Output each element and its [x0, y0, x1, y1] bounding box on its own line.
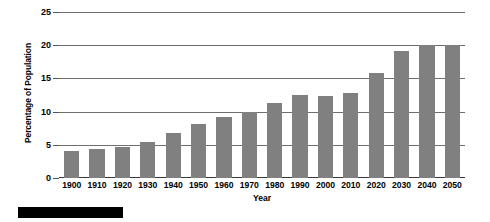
bar-2000 [318, 96, 333, 178]
bar-2020 [369, 73, 384, 178]
y-tick-label-15: 15 [41, 73, 51, 83]
plot-area: 0510152025 [59, 12, 465, 178]
bar-1900 [64, 151, 79, 178]
x-tick-label-2040: 2040 [417, 180, 436, 190]
x-tick-label-2010: 2010 [341, 180, 360, 190]
y-tick-label-0: 0 [46, 173, 51, 183]
bar-1940 [166, 133, 181, 178]
y-tick-label-5: 5 [46, 140, 51, 150]
x-tick-label-2020: 2020 [367, 180, 386, 190]
x-tick-label-1920: 1920 [113, 180, 132, 190]
bar-1930 [140, 142, 155, 178]
bar-1910 [89, 149, 104, 178]
scan-artifact-bar [18, 207, 123, 218]
x-tick-label-2050: 2050 [443, 180, 462, 190]
bar-1920 [115, 147, 130, 178]
y-tick-label-20: 20 [41, 40, 51, 50]
bar-1960 [216, 117, 231, 178]
bar-1990 [292, 95, 307, 178]
bar-chart-figure: Percentage of Population 0510152025 1900… [0, 0, 490, 222]
bar-2030 [394, 51, 409, 178]
x-tick-label-1970: 1970 [240, 180, 259, 190]
y-tick-label-10: 10 [41, 107, 51, 117]
y-tick-mark-0 [53, 178, 59, 179]
x-tick-label-1910: 1910 [88, 180, 107, 190]
bar-2040 [419, 45, 434, 178]
x-tick-label-1900: 1900 [62, 180, 81, 190]
bar-2010 [343, 93, 358, 178]
y-axis-title: Percentage of Population [23, 13, 33, 173]
x-tick-label-1930: 1930 [138, 180, 157, 190]
bar-1970 [242, 112, 257, 178]
x-tick-label-1950: 1950 [189, 180, 208, 190]
bars-layer [59, 12, 465, 178]
x-tick-label-2000: 2000 [316, 180, 335, 190]
x-tick-label-1980: 1980 [265, 180, 284, 190]
bar-1980 [267, 103, 282, 178]
y-tick-label-25: 25 [41, 7, 51, 17]
x-tick-label-1960: 1960 [214, 180, 233, 190]
x-tick-label-1940: 1940 [164, 180, 183, 190]
bar-1950 [191, 124, 206, 178]
x-axis-title: Year [59, 193, 465, 203]
x-tick-label-2030: 2030 [392, 180, 411, 190]
x-tick-label-1990: 1990 [291, 180, 310, 190]
x-axis-ticks: 1900191019201930194019501960197019801990… [59, 180, 465, 194]
bar-2050 [445, 45, 460, 178]
